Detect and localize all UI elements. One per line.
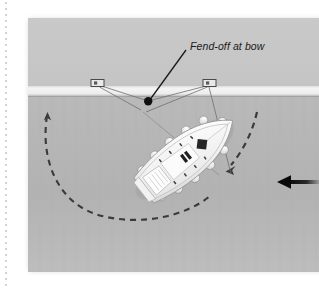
- shore-area: [28, 18, 319, 92]
- bollard-right: [203, 80, 216, 87]
- annotation-label-fend-off-at-bow: Fend-off at bow: [190, 40, 266, 52]
- scene-plate: [0, 0, 319, 290]
- fend-off-at-bow-diagram: Fend-off at bow: [0, 0, 319, 290]
- scene-contents: [28, 18, 319, 272]
- bollard-left: [91, 80, 104, 87]
- mast: [197, 139, 208, 150]
- fend-off-point-marker: [144, 97, 152, 105]
- wind-arrow-shaft: [288, 180, 319, 184]
- diagram-page: Fend-off at bow: [0, 0, 319, 290]
- quay-band: [28, 86, 319, 97]
